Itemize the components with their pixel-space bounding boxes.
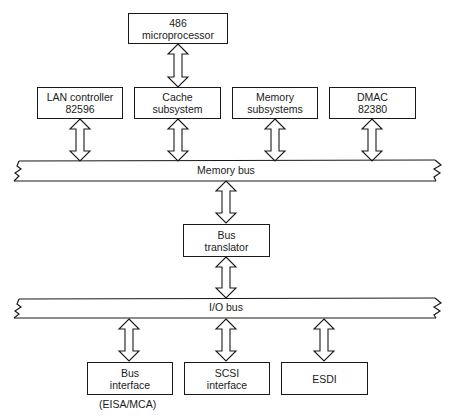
node-label: 82380	[358, 103, 387, 115]
arrow-cpu-cache	[168, 44, 188, 87]
arrow-io-bus-bus-interface	[119, 319, 139, 361]
node-label: LAN controller	[47, 91, 114, 103]
node-lan-controller: LAN controller 82596	[37, 87, 123, 119]
node-486-microprocessor: 486 microprocessor	[128, 13, 228, 44]
arrow-io-bus-scsi	[216, 319, 236, 361]
diagram-canvas	[0, 0, 456, 420]
node-bus-translator: Bus translator	[183, 224, 270, 257]
arrow-cache-memory-bus	[168, 119, 188, 161]
arrow-dmac-memory-bus	[362, 119, 382, 161]
arrow-io-bus-esdi	[314, 319, 334, 361]
node-label: Bus	[121, 367, 139, 379]
node-label: DMAC	[357, 91, 388, 103]
node-label: Bus	[217, 229, 235, 241]
node-label: Cache	[162, 91, 192, 103]
node-label: ESDI	[312, 373, 337, 385]
node-bus-interface: Bus interface	[87, 362, 173, 395]
arrow-translator-io-bus	[216, 257, 236, 298]
node-scsi-interface: SCSI interface	[184, 362, 270, 395]
node-label: interface	[110, 379, 150, 391]
node-label: Memory	[256, 91, 294, 103]
io-bus-label: I/O bus	[176, 301, 276, 313]
node-label: SCSI	[215, 367, 240, 379]
node-label: subsystem	[152, 103, 202, 115]
arrow-lan-memory-bus	[70, 119, 90, 161]
node-label: interface	[207, 379, 247, 391]
node-label: subsystems	[247, 103, 302, 115]
node-dmac: DMAC 82380	[329, 87, 416, 119]
node-label: 82596	[65, 103, 94, 115]
node-memory-subsystems: Memory subsystems	[232, 87, 318, 119]
arrow-memory-memory-bus	[265, 119, 285, 161]
node-label: microprocessor	[142, 29, 214, 41]
node-cache-subsystem: Cache subsystem	[134, 87, 221, 119]
node-esdi: ESDI	[281, 362, 368, 395]
node-label: 486	[169, 17, 187, 29]
node-label: translator	[205, 241, 249, 253]
bus-interface-note: (EISA/MCA)	[99, 398, 156, 410]
memory-bus-label: Memory bus	[176, 164, 276, 176]
arrow-memory-bus-translator	[216, 181, 236, 223]
